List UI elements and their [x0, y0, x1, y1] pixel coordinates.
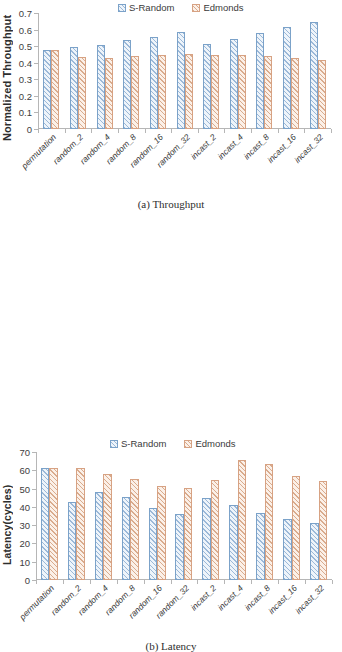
y-tick-label: 0: [25, 575, 30, 586]
bar-s-random: [202, 498, 211, 580]
bar-group: [118, 13, 145, 129]
legend-label-edmonds: Edmonds: [203, 2, 243, 13]
legend-swatch-s-random-icon: [110, 440, 118, 448]
figure-throughput: Normalized Throughput S-Random Edmonds 0…: [0, 0, 342, 222]
y-tick-label: 0.6: [19, 24, 32, 35]
y-tick-label: 50: [19, 483, 30, 494]
bar-group: [117, 452, 144, 580]
bar-group: [144, 452, 171, 580]
bar-edmonds: [238, 460, 247, 580]
bar-group: [251, 452, 278, 580]
y-tick-label: 0.4: [19, 57, 32, 68]
bar-s-random: [256, 33, 264, 129]
bar-edmonds: [184, 488, 193, 580]
plot-area-throughput: 00.10.20.30.40.50.60.7: [38, 13, 331, 129]
bar-group: [304, 13, 331, 129]
bar-edmonds: [185, 54, 193, 129]
bar-group: [171, 13, 198, 129]
x-axis-labels-latency: permutationrandom_2random_4random_8rando…: [36, 581, 332, 637]
y-tick-label: 40: [19, 501, 30, 512]
x-tick-mark: [332, 580, 333, 584]
legend-item-edmonds: Edmonds: [184, 438, 235, 449]
caption-latency: (b) Latency: [0, 640, 342, 652]
bar-s-random: [283, 27, 291, 129]
bar-edmonds: [105, 58, 113, 129]
bar-groups: [38, 13, 331, 129]
bar-edmonds: [211, 480, 220, 580]
bar-group: [65, 13, 92, 129]
bar-edmonds: [211, 55, 219, 129]
y-tick-label: 0: [27, 124, 32, 135]
x-axis-labels-throughput: permutationrandom_2random_4random_8rando…: [38, 130, 331, 186]
bar-edmonds: [130, 479, 139, 580]
y-tick-label: 0.5: [19, 41, 32, 52]
y-tick-label: 60: [19, 465, 30, 476]
caption-throughput: (a) Throughput: [0, 198, 342, 210]
bar-group: [36, 452, 63, 580]
legend-swatch-edmonds-icon: [184, 440, 192, 448]
legend-swatch-s-random-icon: [118, 4, 126, 12]
legend-item-s-random: S-Random: [118, 2, 174, 13]
bar-s-random: [43, 50, 51, 129]
bar-edmonds: [264, 56, 272, 129]
bar-edmonds: [158, 55, 166, 129]
bar-group: [224, 452, 251, 580]
bar-s-random: [150, 37, 158, 129]
x-tick-mark: [331, 129, 332, 133]
y-tick-label: 30: [19, 520, 30, 531]
bar-s-random: [177, 32, 185, 129]
bar-group: [90, 452, 117, 580]
bar-edmonds: [265, 464, 274, 580]
bar-group: [251, 13, 278, 129]
y-tick-label: 0.1: [19, 107, 32, 118]
legend-throughput: S-Random Edmonds: [118, 2, 244, 13]
bar-group: [278, 452, 305, 580]
x-tick-label: permutation: [18, 583, 57, 622]
bar-s-random: [95, 492, 104, 580]
bar-edmonds: [78, 57, 86, 129]
bar-group: [171, 452, 198, 580]
bar-group: [305, 452, 332, 580]
bar-s-random: [97, 45, 105, 130]
bar-group: [63, 452, 90, 580]
bar-edmonds: [49, 468, 58, 580]
legend-label-s-random: S-Random: [121, 438, 166, 449]
x-tick-label: permutation: [20, 132, 59, 171]
x-label-cell: incast_32: [305, 581, 332, 637]
bar-s-random: [230, 39, 238, 129]
bar-s-random: [203, 44, 211, 130]
bar-group: [278, 13, 305, 129]
bar-edmonds: [76, 468, 85, 580]
figure-latency: Latency(cycles) S-Random Edmonds 0102030…: [0, 216, 342, 444]
y-axis-title-latency: Latency(cycles): [1, 466, 13, 584]
y-tick-label: 70: [19, 447, 30, 458]
bar-group: [91, 13, 118, 129]
bar-group: [197, 452, 224, 580]
bar-group: [224, 13, 251, 129]
bar-s-random: [149, 508, 158, 580]
y-tick-label: 20: [19, 538, 30, 549]
y-tick-label: 10: [19, 556, 30, 567]
plot-area-latency: 010203040506070: [36, 452, 332, 580]
bar-s-random: [68, 502, 77, 580]
bar-group: [198, 13, 225, 129]
bar-edmonds: [319, 481, 328, 580]
legend-label-s-random: S-Random: [129, 2, 174, 13]
bar-edmonds: [51, 50, 59, 129]
bar-s-random: [310, 523, 319, 580]
legend-swatch-edmonds-icon: [192, 4, 200, 12]
bar-edmonds: [131, 56, 139, 129]
bar-s-random: [310, 22, 318, 129]
legend-item-edmonds: Edmonds: [192, 2, 243, 13]
bar-s-random: [41, 468, 50, 580]
bar-edmonds: [103, 474, 112, 580]
legend-latency: S-Random Edmonds: [110, 438, 236, 449]
bar-edmonds: [318, 60, 326, 129]
bar-s-random: [229, 505, 238, 580]
bar-edmonds: [238, 55, 246, 129]
y-axis-title-throughput: Normalized Throughput: [1, 12, 13, 144]
bar-s-random: [123, 40, 131, 129]
bar-s-random: [175, 514, 184, 580]
bar-edmonds: [157, 486, 166, 580]
bar-edmonds: [291, 58, 299, 129]
